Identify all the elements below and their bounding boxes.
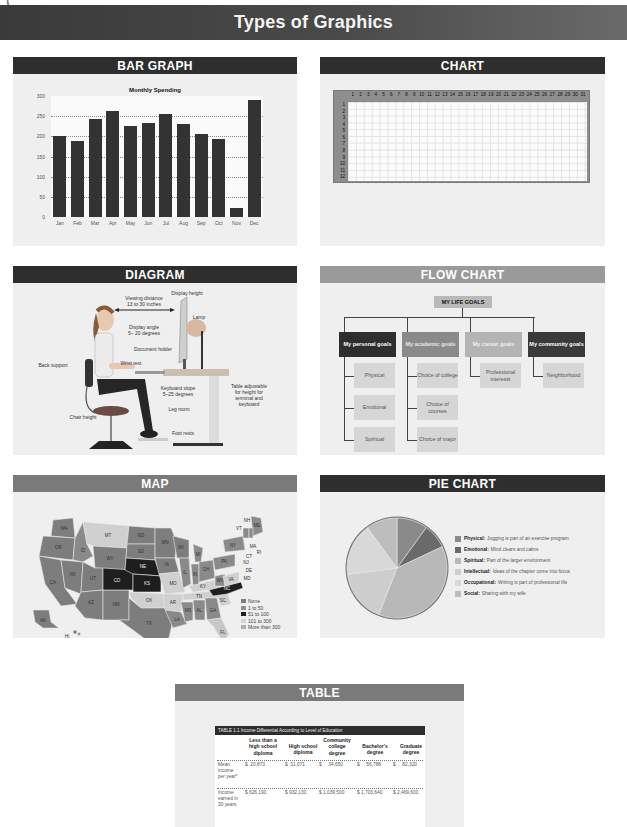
table-cell: $ 626,190 [245,790,281,795]
legend-key: Social: [464,591,480,596]
sub-goal-node: Physical [354,363,395,388]
svg-text:OH: OH [203,567,210,572]
svg-text:KY: KY [200,584,206,589]
svg-text:MO: MO [169,581,177,586]
table-cell: $ 932,130 [285,790,321,795]
gridline [51,136,263,137]
connector-line [344,440,354,441]
legend-swatch [241,599,246,603]
column-header: 22 [510,92,518,101]
column-header: 23 [518,92,526,101]
bar-dec [248,100,261,217]
legend-swatch [455,536,461,542]
column-header: Bachelor's degree [357,743,393,756]
legend-label: More than 300 [248,624,280,630]
legend-swatch [455,569,461,575]
bar-oct [212,139,225,217]
svg-text:NC: NC [224,586,231,591]
legend-label: 101 to 300 [248,618,272,624]
column-header: 21 [502,92,510,101]
sub-goal-node: Professional interests [480,363,521,388]
svg-text:AR: AR [170,600,177,605]
column-header: 18 [479,92,487,101]
sub-goal-node: Spiritual [354,427,395,452]
connector-line [407,317,408,332]
connector-line [533,376,543,377]
x-tick-label: Apr [105,220,121,226]
column-header: 20 [495,92,503,101]
income-table: Less than a high school diplomaHigh scho… [215,735,425,827]
table-cell: $ 1,039,500 [319,790,355,795]
svg-text:CA: CA [50,580,56,585]
connector-line [470,376,480,377]
svg-text:IL: IL [183,570,187,575]
svg-text:MN: MN [162,540,169,545]
column-header: 2 [357,92,365,101]
legend-description: Jogging is part of an exercise program [487,536,569,541]
pie-legend-item: Emotional:Mind clears and calms [455,544,570,555]
column-header: 8 [403,92,411,101]
goal-node: My career goals [465,332,522,357]
legend-swatch [241,619,246,623]
grid-row-headers: 123456789101112 [335,102,347,181]
bar-apr [106,111,119,217]
svg-text:OR: OR [55,545,63,550]
svg-text:AZ: AZ [88,600,94,605]
sub-goal-node: Neighborhood [543,363,584,388]
legend-label: None [248,598,260,604]
svg-text:WA: WA [60,526,67,531]
table-cell: $ 1,703,640 [357,790,393,795]
row-header: 4 [335,122,347,129]
title-banner: Types of Graphics [0,5,627,40]
svg-text:MA: MA [250,544,257,549]
pie-legend-item: Social:Sharing with my wife [455,588,570,599]
connector-line [407,408,417,409]
x-tick-label: Sep [193,220,209,226]
svg-text:VT: VT [236,526,242,531]
column-header: 11 [426,92,434,101]
bar-aug [177,124,190,217]
connector-line [533,317,534,332]
chart-heading: CHART [320,57,605,74]
column-header: Graduate degree [393,743,429,756]
connector-line [344,357,345,440]
sub-goal-node: Choice of college [417,363,458,388]
table-heading: TABLE [175,684,464,701]
infographic-page: Types of Graphics BAR GRAPH Monthly Spen… [0,0,627,827]
connector-line [533,357,534,376]
connector-line [344,317,535,318]
bar-nov [230,208,243,217]
x-tick-label: Jun [140,220,156,226]
x-tick-label: Nov [229,220,245,226]
bar-may [124,126,137,217]
row-divider [217,788,423,789]
svg-text:5–25 degrees: 5–25 degrees [163,391,194,397]
y-tick-label: 300 [25,93,45,99]
column-header: High school diploma [285,743,321,756]
y-tick-label: 0 [25,214,45,220]
svg-text:TX: TX [146,621,152,626]
svg-text:SD: SD [138,549,145,554]
pie-legend-item: Intellectual:Ideas of the chapter come i… [455,566,570,577]
legend-key: Spiritual: [464,558,485,563]
grid-column-headers: 1234567891011121314151617181920212223242… [349,92,587,101]
goal-node: My personal goals [339,332,396,357]
sub-goal-node: Choice of major [417,427,458,452]
legend-description: Part of the larger environment [487,558,550,563]
bar-jul [159,114,172,217]
row-header: 10 [335,161,347,168]
table-cell: $ 31,071 [285,762,321,767]
svg-text:LA: LA [174,617,180,622]
goal-node: My community goals [528,332,585,357]
svg-text:Lamp: Lamp [193,314,206,320]
row-header: 2 [335,109,347,116]
y-tick-label: 200 [25,133,45,139]
grid-cells [348,102,587,181]
svg-text:MS: MS [185,608,192,613]
column-header: 29 [564,92,572,101]
bar-sep [195,134,208,217]
x-tick-label: Aug [176,220,192,226]
svg-text:OK: OK [146,598,153,603]
pie-chart-panel: PIE CHART Physical:Jogging is part of an… [320,475,605,638]
svg-text:ND: ND [138,533,145,538]
